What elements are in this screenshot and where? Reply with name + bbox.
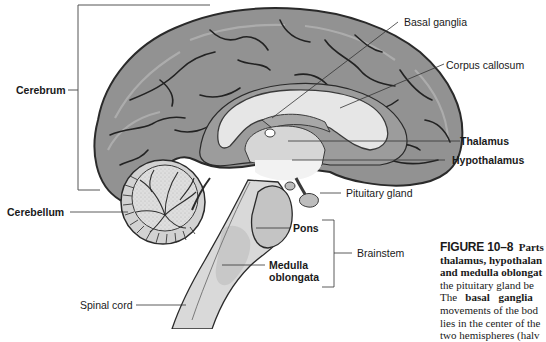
figure-number: FIGURE 10–8 xyxy=(440,240,513,254)
label-cerebrum: Cerebrum xyxy=(16,84,66,96)
caption-line5-bold: basal ganglia xyxy=(465,291,532,303)
label-pituitary-gland: Pituitary gland xyxy=(346,187,413,199)
caption-line1-rest: Parts xyxy=(519,241,544,253)
brainstem-bracket xyxy=(322,220,334,287)
caption-line2: thalamus, hypothalan xyxy=(440,254,542,266)
label-basal-ganglia: Basal ganglia xyxy=(404,16,467,28)
figure-caption: FIGURE 10–8 Parts thalamus, hypothalan a… xyxy=(440,241,546,342)
label-medulla-line1: Medulla xyxy=(269,259,319,271)
pons xyxy=(252,186,293,248)
caption-line3: and medulla oblongat xyxy=(440,266,542,278)
label-corpus-callosum: Corpus callosum xyxy=(446,59,524,71)
caption-line4: the pituitary gland be xyxy=(440,279,546,292)
label-brainstem: Brainstem xyxy=(357,247,404,259)
label-thalamus: Thalamus xyxy=(460,135,509,147)
label-pons: Pons xyxy=(293,222,319,234)
caption-line7: lies in the center of the xyxy=(440,317,546,330)
thalamus-nucleus xyxy=(265,129,275,137)
label-cerebellum: Cerebellum xyxy=(7,206,64,218)
caption-line5-pre: The xyxy=(440,291,457,303)
caption-line8: two hemispheres (halv xyxy=(440,329,546,342)
hypothalamus xyxy=(255,160,322,181)
label-hypothalamus: Hypothalamus xyxy=(452,154,524,166)
label-medulla-line2: oblongata xyxy=(269,271,319,283)
label-spinal-cord: Spinal cord xyxy=(80,299,133,311)
label-medulla-oblongata: Medulla oblongata xyxy=(269,259,319,283)
cerebellum xyxy=(121,160,210,244)
caption-line6: movements of the bod xyxy=(440,304,546,317)
